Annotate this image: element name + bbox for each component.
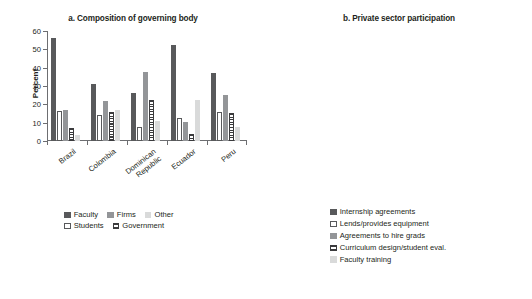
bar-other-peru [235,127,240,141]
chart-a-y-tick-label: 40 [33,63,41,72]
chart-a-x-tick [87,141,88,145]
legend-item-label: Internship agreements [340,208,416,216]
chart-b-legend-row: Internship agreements [330,208,530,216]
chart-a-y-tick-label: 60 [33,27,41,36]
bar-government-brazil [69,128,74,141]
legend-swatch-stripe-icon [330,245,337,252]
bar-government-colombia [109,112,114,141]
chart-a-bar-group [87,31,127,141]
bar-students-peru [217,112,222,141]
legend-item-curriculum-design-student-eval[interactable]: Curriculum design/student eval. [330,244,446,252]
legend-item-other[interactable]: Other [145,211,174,219]
legend-item-internship-agreements[interactable]: Internship agreements [330,208,415,216]
legend-swatch-light-icon [145,212,152,219]
chart-a-bar-group [127,31,167,141]
legend-swatch-stripe-icon [113,223,120,230]
bar-other-colombia [115,110,120,141]
bar-firms-brazil [63,110,68,141]
bar-firms-colombia [103,101,108,141]
chart-a-y-tick-label: 0 [37,137,41,146]
chart-a-bar-group [47,31,87,141]
legend-swatch-mid-icon [107,212,114,219]
legend-swatch-white-icon [64,223,71,230]
chart-b-legend: Internship agreementsLends/provides equi… [330,208,530,268]
bar-students-colombia [97,115,102,141]
chart-a-y-tick-label: 10 [33,118,41,127]
chart-a-x-tick [246,141,247,145]
chart-a-x-tick [127,141,128,145]
bar-other-dominican-republic [155,121,160,141]
chart-a-y-tick-label: 50 [33,45,41,54]
legend-item-label: Government [122,222,164,230]
chart-a-bar-group [167,31,207,141]
legend-swatch-mid-icon [330,233,337,240]
legend-swatch-dark-icon [64,212,71,219]
legend-item-government[interactable]: Government [113,222,164,230]
bar-students-brazil [57,111,62,141]
chart-a-plot-area: Percent 0102030405060 [47,31,247,141]
bar-faculty-dominican-republic [131,93,136,141]
legend-item-lends-provides-equipment[interactable]: Lends/provides equipment [330,220,429,228]
bar-other-ecuador [195,100,200,141]
legend-item-agreements-to-hire-grads[interactable]: Agreements to hire grads [330,232,425,240]
chart-b-legend-row: Agreements to hire grads [330,232,530,240]
chart-a-bar-group [207,31,247,141]
bar-government-peru [229,113,234,141]
legend-item-label: Firms [117,211,136,219]
bar-faculty-peru [211,73,216,141]
chart-a-legend-row: StudentsGovernment [64,222,260,230]
chart-b-legend-row: Curriculum design/student eval. [330,244,530,252]
legend-item-label: Faculty training [340,256,392,264]
figure-root: a. Composition of governing body Percent… [0,0,532,299]
legend-item-faculty[interactable]: Faculty [64,211,98,219]
chart-a-y-tick-label: 30 [33,82,41,91]
chart-b-legend-row: Lends/provides equipment [330,220,530,228]
chart-b-title: b. Private sector participation [266,14,532,23]
legend-item-label: Students [74,222,104,230]
legend-item-label: Lends/provides equipment [340,220,429,228]
legend-swatch-light-icon [330,256,337,263]
chart-a-legend-row: FacultyFirmsOther [64,211,260,219]
chart-a-x-tick [47,141,48,145]
chart-a-legend: FacultyFirmsOtherStudentsGovernment [64,211,260,233]
chart-a-y-tick-label: 20 [33,100,41,109]
legend-item-label: Agreements to hire grads [340,232,425,240]
bar-government-dominican-republic [149,100,154,141]
bar-firms-ecuador [183,122,188,141]
chart-a-title: a. Composition of governing body [0,14,266,23]
bar-faculty-ecuador [171,45,176,141]
bar-students-ecuador [177,118,182,141]
bar-firms-peru [223,95,228,141]
bar-other-brazil [75,135,80,141]
legend-item-label: Curriculum design/student eval. [340,244,446,252]
bar-faculty-colombia [91,84,96,141]
chart-b-legend-row: Faculty training [330,256,530,264]
legend-swatch-white-icon [330,221,337,228]
bar-firms-dominican-republic [143,72,148,141]
bar-faculty-brazil [51,38,56,141]
chart-panel-a: a. Composition of governing body Percent… [0,0,266,299]
legend-item-label: Faculty [74,211,98,219]
legend-item-students[interactable]: Students [64,222,104,230]
legend-item-label: Other [155,211,174,219]
chart-a-x-tick [167,141,168,145]
legend-swatch-dark-icon [330,209,337,216]
chart-a-x-tick [207,141,208,145]
bar-government-ecuador [189,134,194,141]
bar-students-dominican-republic [137,127,142,141]
legend-item-firms[interactable]: Firms [107,211,136,219]
legend-item-faculty-training[interactable]: Faculty training [330,256,391,264]
